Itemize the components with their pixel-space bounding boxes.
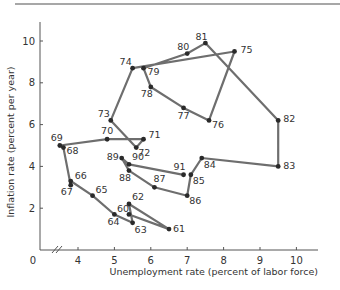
data-point-label: 82: [283, 113, 295, 124]
origin-label: 0: [30, 255, 36, 266]
y-axis-label: Inflation rate (percent per year): [5, 67, 16, 218]
data-point-label: 70: [101, 125, 113, 136]
data-point-label: 85: [193, 175, 205, 186]
data-point-label: 89: [107, 151, 119, 162]
data-point-marker: [152, 185, 157, 190]
y-tick-label: 6: [29, 119, 35, 130]
data-point-label: 65: [96, 184, 108, 195]
y-tick-label: 2: [29, 203, 35, 214]
data-point-marker: [181, 172, 186, 177]
data-point-marker: [185, 51, 190, 56]
data-point-label: 74: [120, 56, 132, 67]
data-point-label: 69: [51, 132, 63, 143]
data-point-marker: [105, 137, 110, 142]
data-point-marker: [141, 137, 146, 142]
data-point-label: 63: [135, 224, 147, 235]
data-point-marker: [207, 118, 212, 123]
data-point-label: 71: [149, 129, 161, 140]
data-point-label: 64: [107, 216, 119, 227]
data-point-marker: [141, 66, 146, 71]
x-axis-label: Unemployment rate (percent of labor forc…: [109, 266, 318, 277]
data-point-marker: [68, 179, 73, 184]
y-tick-label: 8: [29, 77, 35, 88]
data-point-label: 87: [153, 173, 165, 184]
data-point-marker: [127, 162, 132, 167]
data-point-label: 83: [283, 160, 295, 171]
data-point-label: 62: [132, 191, 144, 202]
data-point-label: 68: [66, 145, 78, 156]
data-point-marker: [119, 156, 124, 161]
x-tick-label: 4: [75, 255, 81, 266]
data-point-label: 86: [189, 195, 201, 206]
x-tick-label: 6: [148, 255, 154, 266]
y-tick-label: 4: [29, 161, 35, 172]
data-point-label: 77: [178, 110, 190, 121]
x-tick-label: 7: [184, 255, 190, 266]
x-tick-label: 10: [290, 255, 303, 266]
data-point-label: 60: [117, 203, 129, 214]
data-point-label: 61: [173, 223, 185, 234]
data-point-label: 81: [195, 31, 207, 42]
data-point-marker: [232, 49, 237, 54]
series-line: [60, 43, 278, 229]
x-tick-label: 9: [257, 255, 263, 266]
data-point-marker: [57, 143, 62, 148]
data-point-label: 90: [132, 151, 144, 162]
data-point-label: 67: [61, 186, 73, 197]
data-point-label: 80: [177, 41, 189, 52]
data-point-marker: [167, 227, 172, 232]
x-tick-label: 5: [111, 255, 117, 266]
data-point-marker: [276, 118, 281, 123]
data-point-label: 76: [212, 119, 224, 130]
data-point-label: 78: [141, 88, 153, 99]
phillips-curve-chart: 456789100246810 606162636465666768697071…: [0, 0, 340, 290]
data-point-label: 91: [174, 161, 186, 172]
data-point-label: 66: [75, 170, 87, 181]
x-tick-label: 8: [220, 255, 226, 266]
data-point-marker: [276, 164, 281, 169]
data-point-label: 73: [98, 108, 110, 119]
y-tick-label: 10: [22, 36, 35, 47]
data-point-label: 79: [148, 66, 160, 77]
data-point-label: 84: [204, 159, 216, 170]
data-point-label: 75: [241, 44, 253, 55]
data-series: [57, 41, 280, 232]
data-point-marker: [90, 193, 95, 198]
data-point-label: 88: [119, 172, 131, 183]
